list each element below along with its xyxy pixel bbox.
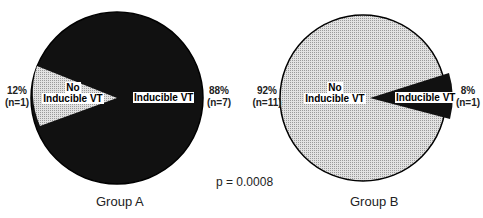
group-a-vt-label: Inducible VT <box>133 92 194 103</box>
group-a-right-label: 88% (n=7) <box>205 85 233 109</box>
group-b-title: Group B <box>350 194 398 209</box>
group-b-left-label: 92% (n=11) <box>250 85 284 109</box>
group-a-title: Group A <box>96 194 144 209</box>
group-a-left-label: 12% (n=1) <box>3 85 31 109</box>
group-b-right-label: 8% (n=1) <box>455 85 481 109</box>
group-b-vt-label: Inducible VT <box>395 92 456 103</box>
group-b-no-vt-label: No Inducible VT <box>300 82 370 104</box>
p-value-annotation: p = 0.0008 <box>216 175 273 189</box>
group-a-no-vt-label: No Inducible VT <box>38 82 108 104</box>
